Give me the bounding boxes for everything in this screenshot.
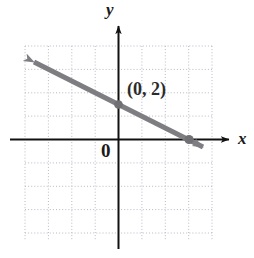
point-y-intercept: [114, 100, 123, 109]
point-x-intercept: [184, 135, 193, 144]
y-axis-label: y: [106, 1, 114, 18]
origin-label: 0: [101, 141, 111, 160]
point-label: (0, 2): [127, 80, 166, 100]
coordinate-plane-svg: [0, 0, 254, 258]
x-axis-label: x: [238, 130, 247, 147]
graph-figure: y x 0 (0, 2): [0, 0, 254, 258]
